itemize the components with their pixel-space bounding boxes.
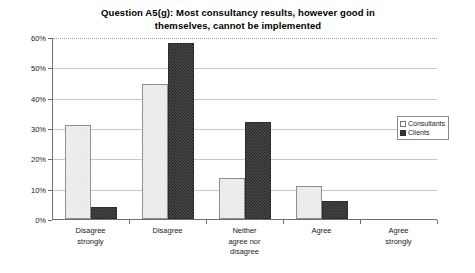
- category-label-line: Neither: [232, 226, 256, 235]
- category-label-0: Disagreestrongly: [52, 226, 129, 247]
- y-tick-mark: [48, 159, 52, 160]
- y-axis-label: 30%: [31, 125, 46, 134]
- legend-swatch-clients: [400, 130, 406, 136]
- bar-clients-3: [322, 201, 348, 219]
- legend-label: Clients: [408, 129, 429, 136]
- chart-title-line-2: themselves, cannot be implemented: [155, 20, 321, 31]
- bar-clients-0: [91, 207, 117, 219]
- y-axis-tick-50%: 50%: [52, 68, 53, 69]
- y-axis-label: 40%: [31, 94, 46, 103]
- bar-consultants-1: [142, 84, 168, 219]
- y-axis-tick-30%: 30%: [52, 129, 53, 130]
- x-tick-mark-4: [437, 220, 438, 224]
- gridline-40%: [53, 99, 437, 100]
- y-axis-label: 10%: [31, 185, 46, 194]
- category-label-line: agree nor: [228, 237, 260, 246]
- y-axis-tick-40%: 40%: [52, 99, 53, 100]
- y-tick-mark: [48, 220, 52, 221]
- category-label-line: Disagree: [152, 226, 182, 235]
- category-label-2: Neitheragree nordisagree: [206, 226, 283, 258]
- bar-chart: Question A5(g): Most consultancy results…: [0, 0, 475, 273]
- bar-clients-2: [245, 122, 271, 219]
- legend-item-clients: Clients: [400, 128, 445, 137]
- y-axis-label: 60%: [31, 34, 46, 43]
- legend-item-consultants: Consultants: [400, 119, 445, 128]
- category-label-4: Agreestrongly: [360, 226, 437, 247]
- x-tick-mark-2: [283, 220, 284, 224]
- chart-title: Question A5(g): Most consultancy results…: [48, 7, 428, 32]
- bar-clients-1: [168, 43, 194, 219]
- y-tick-mark: [48, 129, 52, 130]
- y-axis-tick-60%: 60%: [52, 38, 53, 39]
- y-axis-label: 50%: [31, 64, 46, 73]
- legend-swatch-consultants: [400, 121, 406, 127]
- legend-label: Consultants: [408, 120, 445, 127]
- chart-legend: ConsultantsClients: [397, 116, 449, 140]
- gridline-50%: [53, 68, 437, 69]
- y-axis-label: 0%: [35, 216, 46, 225]
- y-axis-label: 20%: [31, 155, 46, 164]
- category-label-line: disagree: [230, 247, 259, 256]
- category-label-3: Agree: [283, 226, 360, 237]
- x-tick-mark-3: [360, 220, 361, 224]
- y-axis-tick-0%: 0%: [52, 220, 53, 221]
- category-label-line: strongly: [77, 237, 103, 246]
- bar-consultants-0: [65, 125, 91, 219]
- x-tick-mark-1: [206, 220, 207, 224]
- y-axis-tick-10%: 10%: [52, 190, 53, 191]
- x-tick-mark-0: [129, 220, 130, 224]
- category-label-line: Agree: [311, 226, 331, 235]
- category-label-line: Agree: [388, 226, 408, 235]
- y-tick-mark: [48, 68, 52, 69]
- plot-area: 0%10%20%30%40%50%60%: [52, 38, 437, 220]
- x-axis-line: [52, 219, 437, 220]
- bar-consultants-3: [296, 186, 322, 219]
- y-axis-tick-20%: 20%: [52, 159, 53, 160]
- y-tick-mark: [48, 99, 52, 100]
- category-label-line: Disagree: [75, 226, 105, 235]
- chart-title-line-1: Question A5(g): Most consultancy results…: [101, 7, 375, 18]
- category-label-line: strongly: [385, 237, 411, 246]
- y-tick-mark: [48, 38, 52, 39]
- category-label-1: Disagree: [129, 226, 206, 237]
- y-tick-mark: [48, 190, 52, 191]
- gridline-60%: [53, 38, 437, 39]
- bar-consultants-2: [219, 178, 245, 219]
